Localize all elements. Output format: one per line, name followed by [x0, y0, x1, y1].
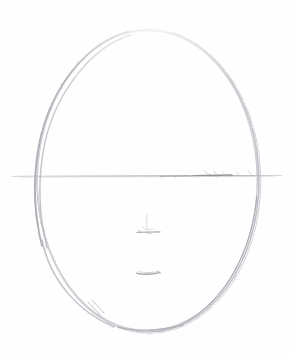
head-oval-left-heavy-2 [40, 35, 131, 248]
sketch-canvas: Faint pencil sketch of a human head grap… [0, 0, 294, 363]
head-oval-lower-left [42, 240, 114, 327]
mouth-group [136, 271, 161, 275]
eye-guideline-accent [193, 175, 232, 176]
mouth-line-pass-2 [139, 271, 159, 272]
pencil-sketch-drawing [0, 0, 294, 363]
eye-guideline-group [12, 171, 282, 178]
head-outline-group [35, 30, 261, 333]
nose-tip-stroke [143, 227, 153, 230]
head-oval-left-heavy [35, 32, 128, 246]
nose-bridge-stroke [147, 214, 148, 229]
nose-group [137, 214, 160, 234]
